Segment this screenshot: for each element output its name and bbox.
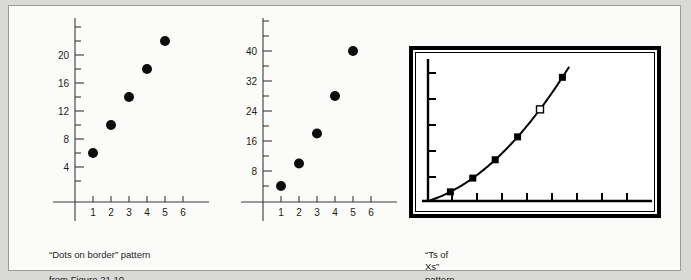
y-tick-label: 16 — [58, 78, 70, 89]
x-tick-label: 5 — [162, 207, 168, 218]
x-tick-label: 3 — [314, 207, 320, 218]
calc-marker — [492, 156, 499, 163]
x-tick-label: 2 — [296, 207, 302, 218]
x-tick-label: 5 — [350, 207, 356, 218]
y-axis-ticks — [75, 55, 84, 167]
x-tick-label: 1 — [278, 207, 284, 218]
x-tick-label: 2 — [108, 207, 114, 218]
y-tick-label: 32 — [246, 76, 258, 87]
caption-line-2: from Figure 21.10 — [49, 274, 124, 280]
x-tick-label: 6 — [180, 207, 186, 218]
calc-marker — [447, 188, 454, 195]
data-point — [88, 148, 98, 158]
x-axis-ticks — [93, 196, 183, 202]
scatter-linear-svg: 20 16 12 8 4 1 2 3 4 5 6 — [23, 6, 219, 228]
calc-marker — [559, 74, 566, 81]
y-tick-label: 12 — [58, 106, 70, 117]
y-tick-label: 8 — [63, 134, 69, 145]
scatter-plot-linear: 20 16 12 8 4 1 2 3 4 5 6 — [23, 6, 219, 228]
calc-marker — [469, 175, 476, 182]
scatter-plot-quadratic: 40 32 24 16 8 1 2 3 4 5 6 — [211, 6, 407, 228]
calc-y-axis-ticks — [428, 73, 436, 177]
y-tick-label: 8 — [251, 166, 257, 177]
caption-line-1: “Dots on border” pattern — [49, 249, 150, 260]
y-tick-label: 24 — [246, 106, 258, 117]
figure-frame: 20 16 12 8 4 1 2 3 4 5 6 — [8, 5, 681, 271]
data-point — [294, 159, 304, 169]
data-series-linear — [88, 36, 170, 158]
data-series-quadratic — [276, 46, 358, 191]
caption-scatter-linear: “Dots on border” pattern from Figure 21.… — [49, 236, 150, 280]
x-tick-label: 4 — [332, 207, 338, 218]
panel-scatter-quadratic: 40 32 24 16 8 1 2 3 4 5 6 — [211, 6, 407, 270]
data-point — [160, 36, 170, 46]
calculator-screen-inner — [415, 52, 655, 212]
data-point — [106, 120, 116, 130]
panel-scatter-linear: 20 16 12 8 4 1 2 3 4 5 6 — [23, 6, 219, 270]
calc-marker-selected — [537, 106, 544, 113]
data-point — [330, 91, 340, 101]
calc-marker — [514, 133, 521, 140]
y-axis-minor-ticks — [75, 27, 81, 181]
x-tick-label: 6 — [368, 207, 374, 218]
y-tick-label: 20 — [58, 50, 70, 61]
x-tick-label: 3 — [126, 207, 132, 218]
y-tick-label: 16 — [246, 136, 258, 147]
y-axis-ticks — [263, 51, 272, 171]
panel-calculator: TI-83 graph of y = x2 + 3x — [397, 6, 672, 270]
y-tick-label: 40 — [246, 46, 258, 57]
x-tick-label: 4 — [144, 207, 150, 218]
data-point — [142, 64, 152, 74]
data-point — [124, 92, 134, 102]
calc-plot-markers — [447, 74, 566, 196]
data-point — [312, 129, 322, 139]
x-axis-ticks — [281, 196, 371, 202]
calculator-graph-svg — [416, 53, 655, 212]
data-point — [348, 46, 358, 56]
calc-curve-path — [428, 67, 569, 201]
data-point — [276, 181, 286, 191]
y-tick-label: 4 — [63, 162, 69, 173]
y-axis-minor-ticks — [263, 21, 269, 186]
calculator-screen — [409, 46, 661, 218]
scatter-quadratic-svg: 40 32 24 16 8 1 2 3 4 5 6 — [211, 6, 407, 228]
x-tick-label: 1 — [90, 207, 96, 218]
